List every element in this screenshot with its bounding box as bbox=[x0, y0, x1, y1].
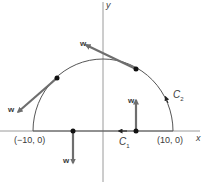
point-left bbox=[55, 76, 60, 81]
point-axis-left bbox=[71, 129, 76, 134]
point-top bbox=[134, 67, 139, 72]
curve-c1-label: C1 bbox=[119, 137, 130, 149]
vector-w-left bbox=[18, 78, 57, 112]
y-axis-label: y bbox=[106, 1, 111, 10]
c2-subscript: 2 bbox=[180, 96, 183, 102]
curve-c2-label: C2 bbox=[173, 90, 184, 102]
point-label-left: (−10, 0) bbox=[14, 136, 45, 145]
vector-label-top: w bbox=[80, 40, 86, 48]
vector-label-left: w bbox=[8, 106, 14, 114]
vector-w-top bbox=[86, 45, 136, 69]
c1-subscript: 1 bbox=[126, 143, 129, 149]
x-axis-label: x bbox=[196, 134, 201, 143]
vector-label-down: w bbox=[63, 157, 69, 165]
vector-label-up: w bbox=[128, 97, 134, 105]
point-label-right: (10, 0) bbox=[157, 136, 183, 145]
point-axis-right bbox=[134, 129, 139, 134]
